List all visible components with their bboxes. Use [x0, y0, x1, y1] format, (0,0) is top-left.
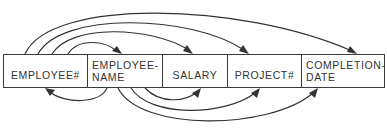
arrowhead-icon — [183, 45, 193, 54]
field-label: PROJECT# — [235, 69, 295, 81]
field-completion-date: COMPLETION- DATE — [302, 54, 385, 88]
field-label: EMPLOYEE# — [11, 69, 80, 81]
arrowhead-icon — [309, 88, 318, 98]
arrowhead-icon — [112, 46, 122, 54]
functional-dependency-diagram: EMPLOYEE# EMPLOYEE- NAME SALARY PROJECT#… — [0, 0, 387, 136]
field-label-line1: EMPLOYEE- — [92, 59, 159, 71]
arrowhead-icon — [239, 45, 249, 54]
field-label: SALARY — [173, 69, 218, 81]
arrow-empno-to-salary — [52, 32, 189, 54]
field-employee-name: EMPLOYEE- NAME — [88, 54, 163, 88]
arrow-name-to-salary — [145, 88, 197, 100]
field-project-number: PROJECT# — [228, 54, 302, 88]
arrowhead-icon — [251, 88, 260, 98]
field-label-line2: DATE — [306, 71, 336, 83]
arrow-name-to-project — [131, 88, 255, 110]
arrow-empno-to-project — [38, 23, 244, 54]
arrowhead-icon — [347, 46, 357, 54]
field-employee-number: EMPLOYEE# — [3, 54, 88, 88]
arrowhead-icon — [192, 88, 201, 98]
field-label-line1: COMPLETION- — [306, 59, 386, 71]
arrow-name-to-empno — [50, 88, 107, 101]
arrow-empno-to-name — [68, 43, 118, 55]
field-salary: SALARY — [163, 54, 228, 88]
field-label-line2: NAME — [92, 71, 125, 83]
arrow-name-to-date — [118, 88, 313, 121]
